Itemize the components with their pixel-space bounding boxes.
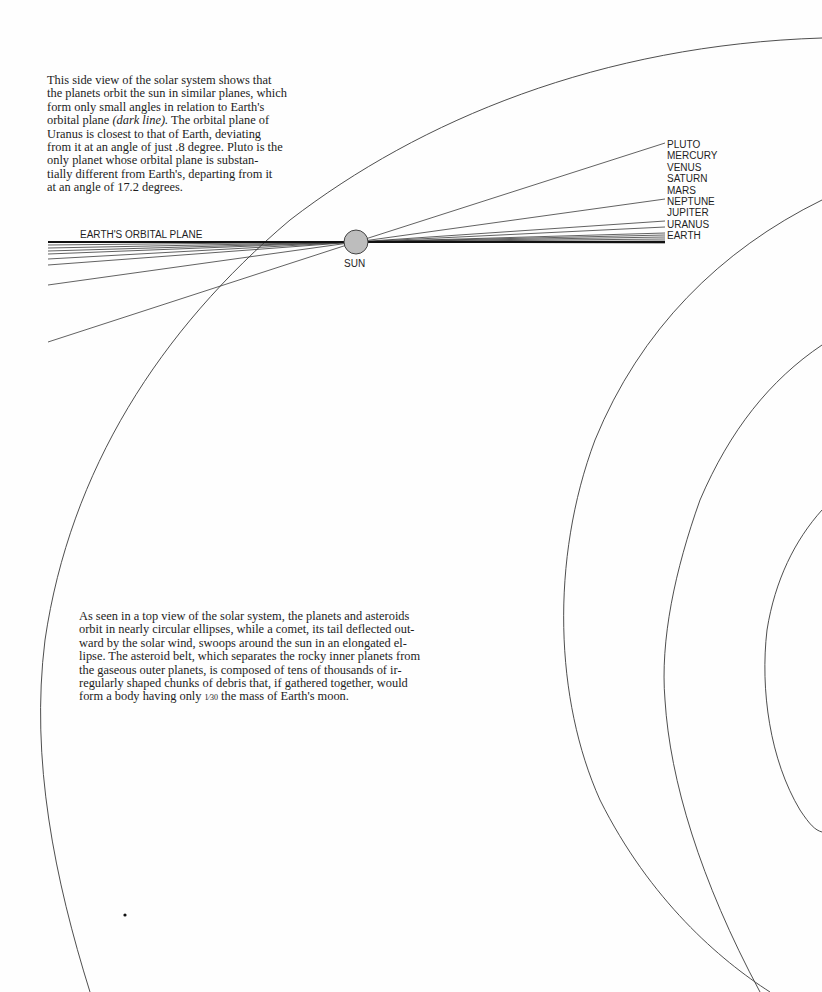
caption-text: orbital plane — [47, 113, 112, 127]
top-view-caption: As seen in a top view of the solar syste… — [79, 610, 420, 705]
caption-line: Uranus is closest to that of Earth, devi… — [47, 128, 287, 141]
planet-label-uranus: URANUS — [667, 219, 717, 230]
caption-text: form a body having only — [79, 689, 205, 703]
planet-label-saturn: SATURN — [667, 173, 717, 184]
sun-icon — [344, 230, 368, 254]
caption-line: ward by the solar wind, swoops around th… — [79, 637, 420, 650]
caption-line: form a body having only 1⁄30 the mass of… — [79, 690, 420, 704]
caption-line: the gaseous outer planets, is composed o… — [79, 664, 420, 677]
caption-line: orbit in nearly circular ellipses, while… — [79, 623, 420, 636]
orbit-arc-second — [564, 200, 822, 992]
caption-line: from it at an angle of just .8 degree. P… — [47, 141, 287, 154]
caption-line: This side view of the solar system shows… — [47, 74, 287, 87]
dot-icon — [123, 913, 126, 916]
caption-line: the planets orbit the sun in similar pla… — [47, 87, 287, 100]
orbit-arc-fourth — [765, 510, 822, 832]
planet-label-list: PLUTO MERCURY VENUS SATURN MARS NEPTUNE … — [667, 139, 717, 242]
page: This side view of the solar system shows… — [0, 0, 822, 992]
side-view-caption: This side view of the solar system shows… — [47, 74, 287, 195]
planet-label-pluto: PLUTO — [667, 139, 717, 150]
caption-text: the mass of Earth's moon. — [218, 689, 349, 703]
caption-line: lipse. The asteroid belt, which separate… — [79, 650, 420, 663]
caption-line: regularly shaped chunks of debris that, … — [79, 677, 420, 690]
caption-line: orbital plane (dark line). The orbital p… — [47, 114, 287, 127]
caption-line: As seen in a top view of the solar syste… — [79, 610, 420, 623]
earth-orbital-plane-label: EARTH'S ORBITAL PLANE — [80, 229, 202, 240]
caption-line: at an angle of 17.2 degrees. — [47, 181, 287, 194]
caption-line: only planet whose orbital plane is subst… — [47, 154, 287, 167]
caption-line: form only small angles in relation to Ea… — [47, 101, 287, 114]
planet-label-mercury: MERCURY — [667, 150, 717, 161]
caption-text: The orbital plane of — [168, 113, 269, 127]
planet-label-jupiter: JUPITER — [667, 207, 717, 218]
planet-label-venus: VENUS — [667, 162, 717, 173]
orbit-arc-third — [664, 345, 822, 992]
planet-label-mars: MARS — [667, 185, 717, 196]
planet-label-earth: EARTH — [667, 230, 717, 241]
caption-line: tially different from Earth's, departing… — [47, 168, 287, 181]
planet-label-neptune: NEPTUNE — [667, 196, 717, 207]
caption-emphasis: (dark line). — [112, 113, 168, 127]
fraction-text: 1⁄30 — [205, 693, 218, 702]
sun-label: SUN — [344, 258, 365, 269]
